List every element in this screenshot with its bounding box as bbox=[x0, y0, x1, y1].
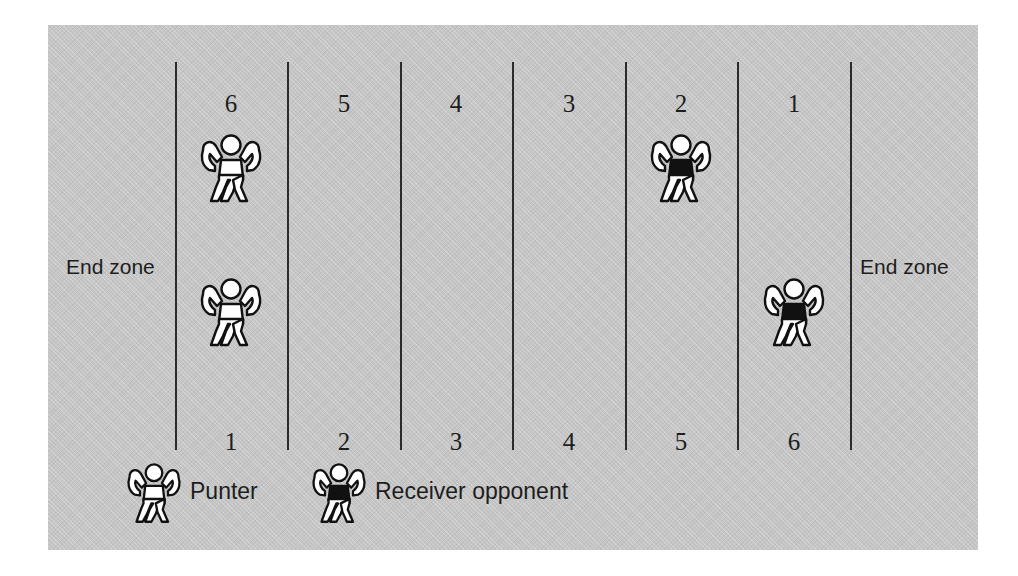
yard-number-top-5: 5 bbox=[324, 91, 364, 116]
yard-number-top-3: 3 bbox=[549, 91, 589, 116]
legend-entry-receiver-opponent: Receiver opponent bbox=[311, 457, 568, 527]
punter-icon bbox=[126, 459, 182, 525]
yard-number-top-4: 4 bbox=[436, 91, 476, 116]
yard-number-bottom-1: 1 bbox=[211, 429, 251, 454]
yard-number-top-2: 2 bbox=[661, 91, 701, 116]
player-punter-bottom bbox=[199, 274, 263, 348]
legend-entry-punter: Punter bbox=[126, 457, 258, 527]
diagram-page: 6 5 4 3 2 1 1 2 3 4 5 6 End zone End zon… bbox=[0, 0, 1018, 576]
player-receiver-opponent-top bbox=[649, 130, 713, 204]
yard-line-7 bbox=[850, 62, 852, 450]
yard-number-bottom-4: 4 bbox=[549, 429, 589, 454]
player-receiver-opponent-bottom bbox=[762, 274, 826, 348]
legend-label-punter: Punter bbox=[190, 478, 258, 507]
receiver-opponent-icon bbox=[311, 459, 367, 525]
yard-line-1 bbox=[175, 62, 177, 450]
football-field: 6 5 4 3 2 1 1 2 3 4 5 6 End zone End zon… bbox=[48, 25, 978, 550]
yard-number-bottom-2: 2 bbox=[324, 429, 364, 454]
endzone-label-right: End zone bbox=[860, 255, 949, 279]
yard-number-bottom-6: 6 bbox=[774, 429, 814, 454]
endzone-label-left: End zone bbox=[66, 255, 155, 279]
yard-number-top-1: 1 bbox=[774, 91, 814, 116]
yard-line-5 bbox=[625, 62, 627, 450]
yard-line-2 bbox=[287, 62, 289, 450]
yard-number-bottom-5: 5 bbox=[661, 429, 701, 454]
legend-label-receiver-opponent: Receiver opponent bbox=[375, 478, 568, 507]
yard-number-bottom-3: 3 bbox=[436, 429, 476, 454]
player-punter-top bbox=[199, 130, 263, 204]
yard-line-4 bbox=[512, 62, 514, 450]
yard-line-6 bbox=[737, 62, 739, 450]
yard-number-top-6: 6 bbox=[211, 91, 251, 116]
yard-line-3 bbox=[400, 62, 402, 450]
